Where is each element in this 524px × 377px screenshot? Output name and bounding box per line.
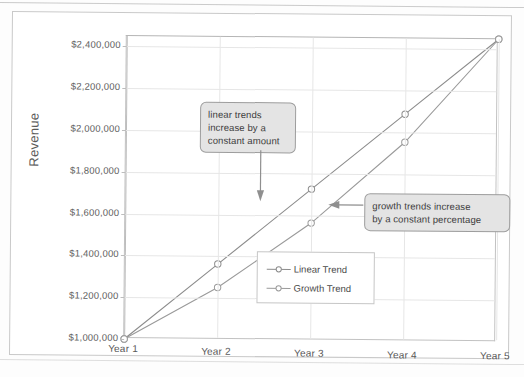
- callout-growth-arrow-icon: [10, 12, 513, 360]
- chart-frame: Revenue $1,000,000$1,200,000$1,400,000$1…: [9, 11, 512, 359]
- chart-inner-container: Revenue $1,000,000$1,200,000$1,400,000$1…: [10, 12, 513, 360]
- scan-edge-top-line: [0, 2, 524, 8]
- chart-screenshot: Revenue $1,000,000$1,200,000$1,400,000$1…: [0, 0, 524, 377]
